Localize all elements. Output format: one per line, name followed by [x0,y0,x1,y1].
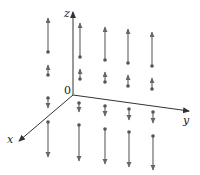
arrow-tail-dot [77,101,81,105]
vector-field-diagram: z y x 0 [0,0,200,175]
y-axis [73,95,189,111]
vector-arrow [46,18,50,54]
vector-arrow [46,120,50,157]
arrow-tail-dot [103,127,107,131]
vector-arrow [77,101,81,112]
vector-arrows [46,18,155,170]
arrow-tail-dot [151,110,155,114]
arrow-tail-dot [103,58,107,62]
arrow-tail-dot [103,80,107,84]
x-axis [19,95,73,141]
vector-arrow [103,104,107,116]
vector-arrow [78,23,82,59]
arrow-tail-dot [103,104,107,108]
vector-arrow [103,27,107,62]
arrow-tail-dot [151,134,155,138]
vector-arrow [126,29,130,65]
vector-arrow [150,32,154,68]
coordinate-axes [19,12,189,141]
vector-arrow [77,123,81,161]
vector-arrow [103,127,107,164]
arrow-tail-dot [150,64,154,68]
vector-arrow [46,65,50,77]
arrow-tail-dot [78,77,82,81]
y-axis-label: y [182,114,190,127]
vector-arrow [126,75,130,88]
arrow-tail-dot [46,50,50,54]
vector-arrow [151,110,155,123]
vector-arrow [127,107,131,120]
arrow-tail-dot [78,55,82,59]
arrow-tail-dot [127,130,131,134]
vector-arrow [103,72,107,84]
x-axis-label: x [7,133,14,146]
vector-arrow [151,134,155,170]
vector-arrow [78,69,82,81]
z-axis-label: z [63,7,70,20]
arrow-tail-dot [126,61,130,65]
vector-arrow [150,78,154,91]
vector-arrow [46,96,50,108]
arrow-tail-dot [46,73,50,77]
arrow-tail-dot [46,120,50,124]
vector-arrow [127,130,131,167]
arrow-tail-dot [150,87,154,91]
arrow-tail-dot [46,96,50,100]
arrow-tail-dot [77,123,81,127]
arrow-tail-dot [126,84,130,88]
origin-label: 0 [64,84,71,97]
arrow-tail-dot [127,107,131,111]
